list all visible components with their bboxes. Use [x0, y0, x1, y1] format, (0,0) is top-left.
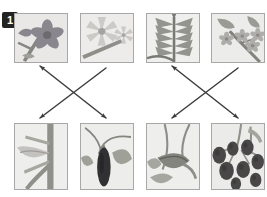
photo-cell-potato-flower-cluster[interactable]: [211, 13, 265, 63]
photo-cell-eggplant-flower[interactable]: [14, 13, 68, 63]
photo-cell-tomato-flower[interactable]: [80, 13, 134, 63]
eggplant-flower-illustration: [15, 14, 67, 62]
tomato-flower-illustration: [81, 14, 133, 62]
link-top4-to-bottom3[interactable]: [172, 66, 238, 118]
photo-cell-pepper-leaves[interactable]: [146, 13, 200, 63]
pale-pod-fruit-illustration: [15, 124, 67, 189]
link-top3-to-bottom4[interactable]: [172, 68, 238, 118]
pepper-leaves-illustration: [147, 14, 199, 62]
photo-cell-tomato-cluster[interactable]: [211, 123, 265, 190]
photo-cell-eggplant-fruit[interactable]: [80, 123, 134, 190]
eggplant-fruit-illustration: [81, 124, 133, 189]
green-pepper-fruit-illustration: [147, 124, 199, 189]
potato-flower-cluster-illustration: [212, 14, 264, 62]
photo-cell-green-pepper-fruit[interactable]: [146, 123, 200, 190]
link-top1-to-bottom2[interactable]: [40, 68, 106, 118]
exercise-page: · · ···· ·· · 1: [0, 0, 267, 197]
photo-cell-pale-pod-fruit[interactable]: [14, 123, 68, 190]
link-top2-to-bottom1[interactable]: [40, 66, 106, 118]
clipped-header-text: · · ···· ·· ·: [196, 0, 258, 4]
tomato-cluster-illustration: [212, 124, 264, 189]
